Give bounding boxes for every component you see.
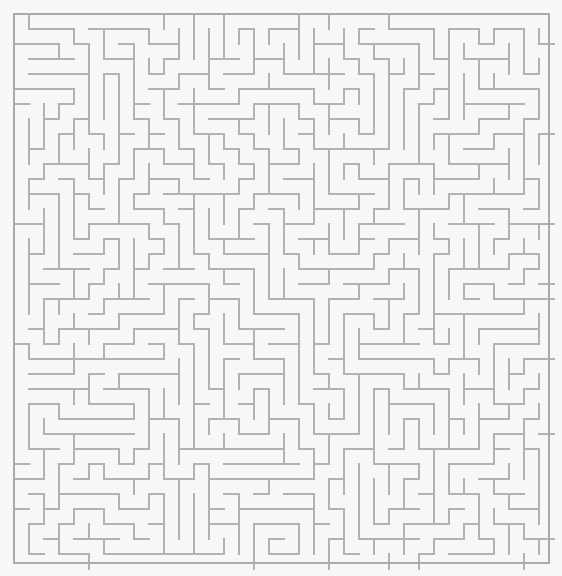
- maze-canvas: [0, 0, 562, 576]
- maze-background: [0, 0, 562, 576]
- maze-page: [0, 0, 562, 576]
- maze-svg: [0, 0, 562, 576]
